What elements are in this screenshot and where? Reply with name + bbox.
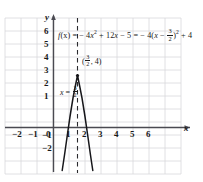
equation-mid: + 12	[97, 31, 114, 40]
vertex-label: (32, 4)	[82, 54, 101, 68]
y-tick-label: 3	[44, 66, 49, 75]
x-tick-label: −1	[28, 130, 38, 139]
equation-frac-denominator: 2	[167, 36, 172, 43]
equation-eq1: = − 4	[70, 31, 90, 40]
y-tick-label: 1	[44, 92, 49, 101]
symmetry-frac-denominator: 2	[73, 92, 78, 98]
equation-of-x: (x)	[60, 31, 70, 40]
symmetry-fraction: 32	[73, 85, 78, 99]
y-tick-label: 5	[44, 40, 49, 49]
y-axis-name: y	[45, 13, 49, 22]
vertex-y-value: , 4)	[91, 57, 102, 66]
vertex-frac-denominator: 2	[85, 61, 90, 67]
x-axis-name: x	[184, 124, 189, 133]
equation-minus: −	[158, 31, 167, 40]
x-tick-label: 4	[114, 130, 119, 139]
x-tick-label: −2	[12, 130, 22, 139]
x-tick-label: 6	[146, 130, 151, 139]
x-tick-label: 5	[130, 130, 135, 139]
symmetry-equals: =	[64, 88, 73, 97]
vertex-fraction: 32	[85, 54, 90, 68]
x-tick-label: 1	[66, 130, 71, 139]
x-tick-label: 2	[82, 130, 87, 139]
y-tick-label: −2	[42, 144, 52, 153]
y-tick-label: −1	[42, 131, 52, 140]
equation-minus5: − 5 = − 4(	[118, 31, 154, 40]
x-tick-label: 3	[98, 130, 103, 139]
axis-of-symmetry-label: x = 32	[60, 85, 78, 99]
y-tick-label: 4	[44, 53, 49, 62]
vertex-point	[76, 74, 79, 77]
equation-fraction: 32	[167, 28, 172, 42]
y-tick-label: 6	[44, 27, 49, 36]
equation-annotation: f(x) = − 4x2 + 12x − 5 = − 4(x − 32)2 + …	[58, 28, 192, 42]
equation-plus4: + 4	[179, 31, 192, 40]
y-tick-label: 2	[44, 79, 49, 88]
y-axis-arrowhead	[51, 14, 56, 20]
parabola-graph-figure: f(x) = − 4x2 + 12x − 5 = − 4(x − 32)2 + …	[0, 0, 203, 182]
